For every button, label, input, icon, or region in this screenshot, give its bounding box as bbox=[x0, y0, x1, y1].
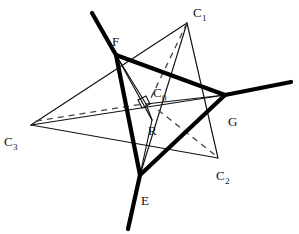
label-c1: C bbox=[193, 5, 202, 20]
label-r: R bbox=[148, 123, 157, 138]
label-c3-subscript: 3 bbox=[13, 142, 18, 152]
label-c0-subscript: 0 bbox=[162, 93, 167, 103]
label-c2: C bbox=[216, 168, 225, 183]
diagram-canvas: C 1 C 0 C 2 C 3 F G E R bbox=[0, 0, 299, 234]
label-e: E bbox=[141, 193, 149, 208]
label-f: F bbox=[112, 34, 119, 49]
geometric-figure: C 1 C 0 C 2 C 3 F G E R bbox=[0, 0, 299, 234]
label-c2-subscript: 2 bbox=[225, 176, 230, 186]
label-c1-subscript: 1 bbox=[202, 13, 207, 23]
label-c3: C bbox=[4, 134, 13, 149]
canvas-background bbox=[0, 0, 299, 234]
label-c0: C bbox=[153, 85, 162, 100]
label-g: G bbox=[228, 114, 237, 129]
